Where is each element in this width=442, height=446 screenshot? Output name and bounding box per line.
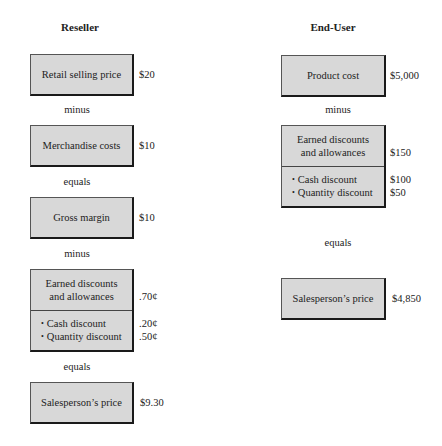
- discount-item-label: Quantity discount: [47, 331, 122, 342]
- cash-discount-value: .20¢: [139, 317, 157, 330]
- connector-equals: equals: [47, 361, 107, 372]
- reseller-title: Reseller: [50, 21, 110, 33]
- discount-items: •Cash discount •Quantity discount: [31, 309, 132, 350]
- merchandise-costs-value: $10: [139, 139, 155, 152]
- discount-item-label: Quantity discount: [298, 187, 373, 198]
- salesperson-price-box: Salesperson’s price: [30, 382, 134, 424]
- earned-discounts-label-line1: Earned discounts: [297, 133, 369, 146]
- discount-item-label: Cash discount: [298, 174, 357, 185]
- product-cost-value: $5,000: [390, 69, 419, 82]
- discount-item-quantity: •Quantity discount: [292, 186, 384, 199]
- merchandise-costs-box: Merchandise costs: [30, 125, 134, 167]
- discount-item-cash: •Cash discount: [292, 173, 384, 186]
- quantity-discount-value: .50¢: [139, 330, 157, 343]
- salesperson-price-value: $4,850: [392, 292, 421, 305]
- cash-discount-value: $100: [390, 173, 411, 186]
- salesperson-price-box: Salesperson’s price: [281, 278, 386, 320]
- earned-discounts-value: $150: [390, 146, 411, 159]
- earned-discounts-value: .70¢: [139, 290, 157, 303]
- earned-discounts-label-line1: Earned discounts: [45, 277, 117, 290]
- merchandise-costs-label: Merchandise costs: [31, 126, 132, 165]
- gross-margin-label: Gross margin: [31, 198, 132, 237]
- product-cost-label: Product cost: [282, 56, 384, 95]
- earned-discounts-label-line2: and allowances: [301, 146, 365, 159]
- salesperson-price-label: Salesperson’s price: [31, 383, 132, 422]
- bullet-icon: •: [41, 317, 44, 330]
- bullet-icon: •: [292, 173, 295, 186]
- earned-discounts-box: Earned discounts and allowances •Cash di…: [30, 269, 134, 352]
- connector-minus: minus: [308, 104, 368, 115]
- connector-minus: minus: [47, 104, 107, 115]
- earned-discounts-box: Earned discounts and allowances •Cash di…: [281, 125, 386, 208]
- connector-equals: equals: [308, 237, 368, 248]
- salesperson-price-label: Salesperson’s price: [282, 279, 384, 318]
- gross-margin-box: Gross margin: [30, 197, 134, 239]
- quantity-discount-value: $50: [390, 186, 406, 199]
- discount-item-label: Cash discount: [47, 318, 106, 329]
- retail-selling-price-label: Retail selling price: [31, 55, 132, 94]
- discount-item-quantity: •Quantity discount: [41, 330, 132, 343]
- earned-discounts-label-line2: and allowances: [49, 290, 113, 303]
- bullet-icon: •: [292, 186, 295, 199]
- retail-selling-price-box: Retail selling price: [30, 54, 134, 96]
- earned-discounts-header: Earned discounts and allowances: [282, 126, 384, 167]
- bullet-icon: •: [41, 330, 44, 343]
- earned-discounts-header: Earned discounts and allowances: [31, 270, 132, 311]
- product-cost-box: Product cost: [281, 55, 386, 97]
- discount-item-cash: •Cash discount: [41, 317, 132, 330]
- connector-equals: equals: [47, 176, 107, 187]
- retail-selling-price-value: $20: [139, 68, 155, 81]
- connector-minus: minus: [47, 248, 107, 259]
- discount-items: •Cash discount •Quantity discount: [282, 165, 384, 206]
- gross-margin-value: $10: [139, 211, 155, 224]
- end-user-title: End-User: [298, 21, 368, 33]
- salesperson-price-value: $9.30: [140, 396, 164, 409]
